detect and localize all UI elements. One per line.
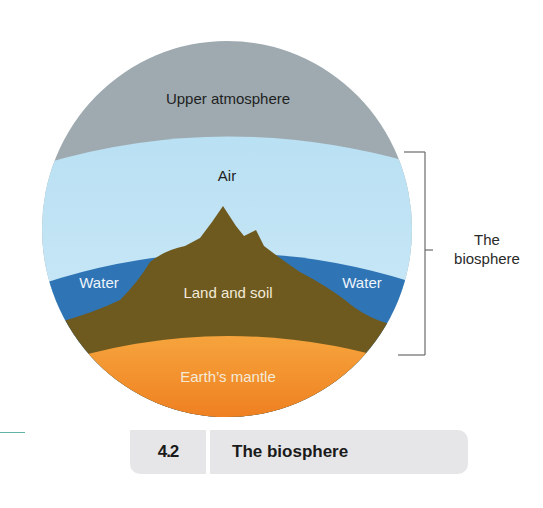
figure-title: The biosphere: [210, 430, 468, 474]
bracket-label-line1: The: [437, 230, 537, 249]
label-land-and-soil: Land and soil: [183, 284, 272, 301]
label-air: Air: [218, 167, 236, 184]
label-water-right: Water: [342, 274, 381, 291]
label-upper-atmosphere: Upper atmosphere: [166, 90, 290, 107]
label-water-left: Water: [79, 274, 118, 291]
biosphere-bracket-label: The biosphere: [437, 230, 537, 268]
label-earths-mantle: Earth’s mantle: [180, 368, 276, 385]
bracket-label-line2: biosphere: [437, 249, 537, 268]
accent-rule: [0, 432, 25, 433]
figure-caption: 4.2 The biosphere: [130, 430, 468, 474]
figure-number: 4.2: [130, 430, 206, 474]
